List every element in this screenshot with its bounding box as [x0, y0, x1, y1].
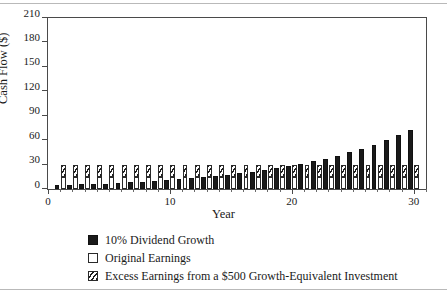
bar-group [396, 18, 408, 189]
bar-group [54, 18, 66, 189]
bar-original-earnings [292, 177, 297, 189]
y-axis-label: Cash Flow ($) [0, 32, 11, 104]
bar-dividend-growth [347, 152, 352, 189]
bar-excess-earnings [219, 165, 224, 177]
x-tick-mark-minor [280, 189, 281, 192]
x-tick-label: 0 [45, 196, 51, 207]
x-tick-mark-minor [219, 189, 220, 192]
x-tick-mark-minor [243, 189, 244, 192]
bar-dividend-growth [116, 183, 121, 189]
bar-excess-earnings [97, 165, 102, 177]
bar-original-earnings [353, 177, 358, 189]
bar-excess-earnings [341, 165, 346, 177]
bar-group [371, 18, 383, 189]
bar-dividend-growth [91, 184, 96, 189]
bar-group [188, 18, 200, 189]
bar-original-earnings [414, 177, 419, 189]
bar-excess-earnings [268, 165, 273, 177]
x-tick-mark-minor [365, 189, 366, 192]
bar-dividend-growth [67, 185, 72, 189]
bar-dividend-growth [152, 181, 157, 189]
y-tick-label: 120 [0, 80, 40, 91]
bar-excess-earnings [61, 165, 66, 177]
plot-area: 0306090120150180210 0102030 [47, 17, 427, 190]
bar-excess-earnings [122, 165, 127, 177]
bar-group [274, 18, 286, 189]
bar-dividend-growth [140, 182, 145, 189]
x-tick-label: 10 [164, 196, 175, 207]
bar-group [261, 18, 273, 189]
x-tick-mark-minor [426, 189, 427, 192]
x-tick-mark-minor [146, 189, 147, 192]
bar-dividend-growth [237, 173, 242, 189]
bar-dividend-growth [384, 140, 389, 189]
bar-group [200, 18, 212, 189]
x-tick-mark-minor [328, 189, 329, 192]
legend-item: Original Earnings [88, 250, 398, 266]
y-tick-label: 90 [0, 105, 40, 116]
y-tick-mark [42, 139, 48, 140]
x-tick-mark-minor [60, 189, 61, 192]
x-tick-mark-minor [267, 189, 268, 192]
bar-original-earnings [378, 177, 383, 189]
bar-dividend-growth [55, 185, 60, 189]
y-tick-mark [42, 115, 48, 116]
bar-dividend-growth [408, 130, 413, 189]
bar-group [322, 18, 334, 189]
bar-original-earnings [402, 177, 407, 189]
bar-group [78, 18, 90, 189]
bar-group [249, 18, 261, 189]
legend-swatch-icon [88, 253, 98, 263]
bar-original-earnings [305, 177, 310, 189]
legend-item-label: 10% Dividend Growth [105, 232, 214, 248]
x-tick-mark-minor [97, 189, 98, 192]
bar-original-earnings [97, 177, 102, 189]
bar-group [164, 18, 176, 189]
x-tick-label: 20 [286, 196, 297, 207]
bar-original-earnings [329, 177, 334, 189]
legend-item-label: Excess Earnings from a $500 Growth-Equiv… [105, 268, 398, 284]
x-tick-mark-minor [316, 189, 317, 192]
bar-excess-earnings [170, 165, 175, 177]
bar-dividend-growth [396, 135, 401, 189]
x-tick-mark-minor [207, 189, 208, 192]
y-tick-mark [42, 164, 48, 165]
bar-group [139, 18, 151, 189]
bar-excess-earnings [183, 165, 188, 177]
x-tick-mark-minor [304, 189, 305, 192]
x-tick-mark-minor [182, 189, 183, 192]
bar-group [66, 18, 78, 189]
bar-excess-earnings [292, 165, 297, 177]
bar-dividend-growth [103, 184, 108, 189]
bar-group [237, 18, 249, 189]
x-axis-label: Year [0, 207, 447, 222]
bar-original-earnings [231, 177, 236, 189]
bar-original-earnings [207, 177, 212, 189]
bar-dividend-growth [79, 184, 84, 189]
y-tick-label: 0 [0, 178, 40, 189]
bar-excess-earnings [353, 165, 358, 177]
y-tick-label: 210 [0, 7, 40, 18]
bar-excess-earnings [158, 165, 163, 177]
bar-dividend-growth [262, 170, 267, 189]
bar-excess-earnings [146, 165, 151, 177]
x-tick-mark-minor [402, 189, 403, 192]
bar-excess-earnings [414, 165, 419, 177]
bar-dividend-growth [323, 159, 328, 189]
x-tick-mark-major [48, 189, 49, 194]
bar-original-earnings [366, 177, 371, 189]
bar-group [408, 18, 420, 189]
bar-dividend-growth [201, 177, 206, 189]
x-tick-mark-minor [85, 189, 86, 192]
bar-group [286, 18, 298, 189]
bar-excess-earnings [73, 165, 78, 177]
bar-group [225, 18, 237, 189]
bar-excess-earnings [231, 165, 236, 177]
bar-dividend-growth [286, 166, 291, 189]
bar-original-earnings [146, 177, 151, 189]
bar-excess-earnings [256, 165, 261, 177]
chart-legend: 10% Dividend GrowthOriginal EarningsExce… [88, 232, 398, 286]
bar-excess-earnings [329, 165, 334, 177]
bar-original-earnings [195, 177, 200, 189]
y-tick-mark [42, 90, 48, 91]
